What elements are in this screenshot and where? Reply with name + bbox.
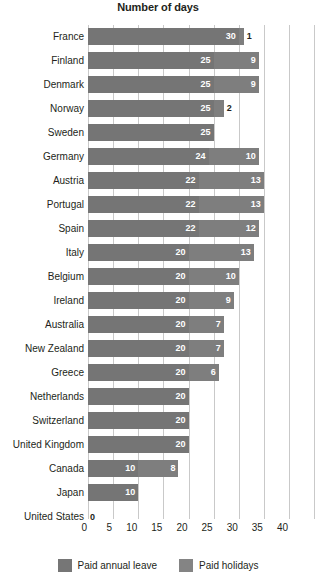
category-label: Spain <box>0 220 84 237</box>
bar-value-label: 20 <box>175 344 188 353</box>
bar-row: 10 <box>88 481 289 505</box>
axis-tick-label: 35 <box>239 521 263 535</box>
gridline <box>314 25 315 519</box>
category-label: Canada <box>0 460 84 477</box>
legend-item: Paid annual leave <box>58 559 158 572</box>
chart-legend: Paid annual leavePaid holidays <box>0 552 316 578</box>
category-label: France <box>0 28 84 45</box>
bar-segment-annual-leave: 20 <box>88 412 189 429</box>
bar-value-label: 10 <box>125 488 138 497</box>
bar-value-label: 25 <box>201 56 214 65</box>
bar-value-label: 7 <box>216 344 224 353</box>
axis-tick-label: 15 <box>138 521 162 535</box>
bar-value-label: 7 <box>216 320 224 329</box>
category-label: Japan <box>0 484 84 501</box>
bar-value-label: 20 <box>175 248 188 257</box>
bar-segment-annual-leave: 24 <box>88 148 209 165</box>
value-axis-ticks: 0510152025303540 <box>0 519 316 537</box>
bar-segment-annual-leave: 10 <box>88 460 138 477</box>
bar-value-label: 9 <box>251 56 259 65</box>
stacked-bar: 259 <box>88 76 259 93</box>
bar-value-label: 20 <box>175 368 188 377</box>
bar-segment-paid-holidays: 13 <box>189 244 254 261</box>
stacked-bar: 252 <box>88 100 224 117</box>
category-label: Greece <box>0 364 84 381</box>
bar-value-label: 9 <box>251 80 259 89</box>
stacked-bar: 2213 <box>88 196 264 213</box>
bar-value-label: 10 <box>246 152 259 161</box>
bar-segment-annual-leave: 20 <box>88 340 189 357</box>
bar-value-label: 13 <box>251 200 264 209</box>
axis-tick-label: 10 <box>113 521 137 535</box>
bar-segment-paid-holidays: 9 <box>214 76 259 93</box>
bar-segment-annual-leave: 25 <box>88 52 214 69</box>
legend-label: Paid holidays <box>199 560 258 571</box>
bar-segment-annual-leave: 20 <box>88 316 189 333</box>
bar-value-label: 22 <box>186 200 199 209</box>
axis-tick-label: 30 <box>214 521 238 535</box>
bar-segment-annual-leave: 22 <box>88 172 199 189</box>
bar-segment-paid-holidays: 8 <box>138 460 178 477</box>
bar-value-label: 2 <box>224 104 232 113</box>
bar-segment-paid-holidays: 10 <box>189 268 239 285</box>
stacked-bar: 20 <box>88 412 189 429</box>
bar-segment-annual-leave: 10 <box>88 484 138 501</box>
category-label: United Kingdom <box>0 436 84 453</box>
bar-row: 2212 <box>88 217 289 241</box>
category-label: Belgium <box>0 268 84 285</box>
bar-segment-paid-holidays: 10 <box>209 148 259 165</box>
bar-rows: 3012592592522524102213221322122013201020… <box>88 25 289 519</box>
axis-tick-label: 40 <box>264 521 288 535</box>
bar-value-label: 25 <box>201 104 214 113</box>
bar-value-label: 9 <box>226 296 234 305</box>
stacked-bar: 20 <box>88 436 189 453</box>
bar-segment-paid-holidays: 13 <box>199 172 264 189</box>
bar-value-label: 20 <box>175 296 188 305</box>
stacked-bar: 108 <box>88 460 178 477</box>
stacked-bar: 301 <box>88 28 244 45</box>
bar-segment-annual-leave: 30 <box>88 28 239 45</box>
horizontal-stacked-bar-chart: Number of days 3012592592522524102213221… <box>0 0 316 582</box>
bar-segment-annual-leave: 22 <box>88 196 199 213</box>
bar-segment-annual-leave: 25 <box>88 100 214 117</box>
plot-area: 3012592592522524102213221322122013201020… <box>88 25 289 519</box>
bar-row: 207 <box>88 337 289 361</box>
bar-value-label: 10 <box>125 464 138 473</box>
bar-row: 259 <box>88 49 289 73</box>
bar-value-label: 6 <box>211 368 219 377</box>
bar-row: 108 <box>88 457 289 481</box>
stacked-bar: 2010 <box>88 268 239 285</box>
bar-row: 209 <box>88 289 289 313</box>
axis-tick-label: 20 <box>164 521 188 535</box>
category-label: Finland <box>0 52 84 69</box>
category-label: Australia <box>0 316 84 333</box>
bar-segment-annual-leave: 22 <box>88 220 199 237</box>
bar-row: 20 <box>88 433 289 457</box>
stacked-bar: 2013 <box>88 244 254 261</box>
bar-row: 206 <box>88 361 289 385</box>
bar-value-label: 1 <box>244 32 252 41</box>
category-label: Ireland <box>0 292 84 309</box>
bar-segment-annual-leave: 25 <box>88 76 214 93</box>
bar-value-label: 24 <box>196 152 209 161</box>
bar-value-label: 13 <box>251 176 264 185</box>
legend-label: Paid annual leave <box>78 560 158 571</box>
bar-row: 2410 <box>88 145 289 169</box>
bar-segment-paid-holidays: 12 <box>199 220 259 237</box>
bar-segment-annual-leave: 20 <box>88 388 189 405</box>
axis-tick-label: 25 <box>189 521 213 535</box>
category-label: Netherlands <box>0 388 84 405</box>
bar-row: 20 <box>88 409 289 433</box>
bar-row: 2213 <box>88 193 289 217</box>
bar-segment-paid-holidays: 7 <box>189 340 224 357</box>
legend-item: Paid holidays <box>179 559 258 572</box>
gridline <box>289 25 290 519</box>
bar-segment-paid-holidays: 9 <box>189 292 234 309</box>
bar-value-label: 20 <box>175 440 188 449</box>
bar-segment-annual-leave: 20 <box>88 268 189 285</box>
stacked-bar: 2213 <box>88 172 264 189</box>
bar-segment-annual-leave: 20 <box>88 292 189 309</box>
bar-row: 25 <box>88 121 289 145</box>
stacked-bar: 10 <box>88 484 138 501</box>
bar-value-label: 20 <box>175 392 188 401</box>
